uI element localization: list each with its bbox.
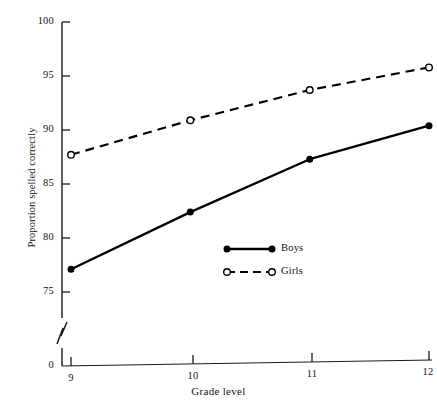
data-point-girls-grade-11 <box>306 87 313 94</box>
x-tick-label-9: 9 <box>58 372 84 383</box>
y-tick-label-100: 100 <box>28 15 54 26</box>
x-tick-label-10: 10 <box>180 370 206 381</box>
y-axis-title: Proportion spelled correctly <box>26 88 37 288</box>
data-point-boys-grade-11 <box>306 156 313 163</box>
legend-marker-girls-left <box>224 269 231 276</box>
data-point-boys-grade-10 <box>187 209 194 216</box>
data-point-boys-grade-9 <box>68 266 75 273</box>
y-tick-label-zero: 0 <box>28 359 54 370</box>
x-axis-title: Grade level <box>0 385 437 397</box>
legend-marker-boys-left <box>224 246 231 253</box>
data-point-boys-grade-12 <box>426 122 433 129</box>
data-point-girls-grade-10 <box>187 117 194 124</box>
x-tick-label-11: 11 <box>299 368 325 379</box>
x-axis-spine <box>62 360 432 366</box>
data-point-girls-grade-12 <box>426 64 433 71</box>
legend-marker-girls-right <box>269 269 276 276</box>
x-tick-label-12: 12 <box>415 366 437 377</box>
y-axis-break-zigzag <box>57 322 67 344</box>
legend-label-girls: Girls <box>281 265 303 276</box>
legend-label-boys: Boys <box>281 242 303 253</box>
spelling-proportion-line-chart: 100 95 90 85 80 75 0 9 10 11 12 Proporti… <box>0 0 437 412</box>
chart-plot-area <box>0 0 437 412</box>
y-tick-label-95: 95 <box>28 69 54 80</box>
data-point-girls-grade-9 <box>68 152 75 159</box>
series-line-boys <box>71 126 429 270</box>
legend-marker-boys-right <box>269 246 276 253</box>
